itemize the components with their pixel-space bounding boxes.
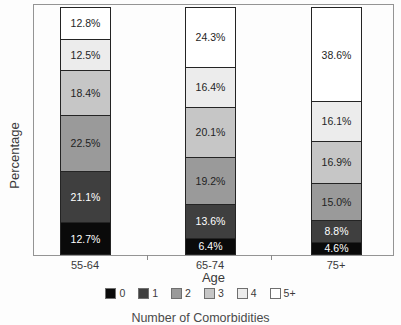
bar-segment: 19.2%: [186, 157, 235, 204]
legend-label: 3: [218, 287, 224, 299]
bar-segment: 16.1%: [312, 101, 361, 141]
bar-segment: 12.7%: [61, 222, 110, 254]
bar-segment: 12.8%: [61, 8, 110, 39]
bar-segment: 6.4%: [186, 238, 235, 254]
legend-item: 5+: [270, 287, 296, 299]
legend-item: 3: [204, 287, 224, 299]
segment-value-label: 12.5%: [71, 50, 101, 60]
legend-label: 2: [185, 287, 191, 299]
segment-value-label: 12.8%: [71, 18, 101, 28]
bar-segment: 12.5%: [61, 39, 110, 70]
legend-swatch: [105, 288, 116, 299]
bar-segment: 8.8%: [312, 220, 361, 242]
segment-value-label: 16.9%: [322, 157, 352, 167]
segment-value-label: 20.1%: [196, 127, 226, 137]
segment-value-label: 19.2%: [196, 176, 226, 186]
segment-value-label: 16.4%: [196, 82, 226, 92]
segment-value-label: 8.8%: [325, 226, 349, 236]
bar-segment: 13.6%: [186, 204, 235, 238]
segment-value-label: 16.1%: [322, 116, 352, 126]
bar-segment: 18.4%: [61, 70, 110, 115]
bar-segment: 20.1%: [186, 107, 235, 156]
bar-segment: 4.6%: [312, 242, 361, 254]
bar-75+: 38.6%16.1%16.9%15.0%8.8%4.6%: [311, 7, 362, 255]
bar-segment: 38.6%: [312, 8, 361, 101]
bar-segment: 22.5%: [61, 115, 110, 170]
bar-segment: 21.1%: [61, 171, 110, 223]
bar-55-64: 12.8%12.5%18.4%22.5%21.1%12.7%: [60, 7, 111, 255]
segment-value-label: 24.3%: [196, 32, 226, 42]
legend-item: 1: [138, 287, 158, 299]
segment-value-label: 13.6%: [196, 216, 226, 226]
bars-layer: 12.8%12.5%18.4%22.5%21.1%12.7%24.3%16.4%…: [34, 5, 393, 255]
segment-value-label: 38.6%: [322, 50, 352, 60]
axis-tick: [271, 255, 272, 260]
footer-caption: Number of Comorbidities: [0, 311, 401, 325]
segment-value-label: 6.4%: [199, 241, 223, 251]
legend: 012345+: [0, 287, 401, 299]
plot-area: 12.8%12.5%18.4%22.5%21.1%12.7%24.3%16.4%…: [33, 4, 394, 256]
legend-swatch: [204, 288, 215, 299]
legend-label: 1: [152, 287, 158, 299]
segment-value-label: 22.5%: [71, 138, 101, 148]
segment-value-label: 15.0%: [322, 197, 352, 207]
bar-segment: 16.4%: [186, 67, 235, 108]
x-axis-title: Age: [33, 270, 394, 285]
segment-value-label: 18.4%: [71, 88, 101, 98]
legend-label: 4: [251, 287, 257, 299]
bar-segment: 15.0%: [312, 183, 361, 220]
segment-value-label: 21.1%: [71, 192, 101, 202]
legend-swatch: [237, 288, 248, 299]
legend-item: 2: [171, 287, 191, 299]
segment-value-label: 4.6%: [325, 243, 349, 253]
y-axis-title: Percentage: [7, 121, 22, 191]
legend-swatch: [270, 288, 281, 299]
legend-item: 4: [237, 287, 257, 299]
legend-label: 5+: [284, 287, 296, 299]
bar-65-74: 24.3%16.4%20.1%19.2%13.6%6.4%: [185, 7, 236, 255]
segment-value-label: 12.7%: [71, 234, 101, 244]
legend-item: 0: [105, 287, 125, 299]
legend-label: 0: [119, 287, 125, 299]
legend-swatch: [171, 288, 182, 299]
bar-segment: 24.3%: [186, 8, 235, 67]
axis-tick: [147, 255, 148, 260]
legend-swatch: [138, 288, 149, 299]
bar-segment: 16.9%: [312, 141, 361, 183]
